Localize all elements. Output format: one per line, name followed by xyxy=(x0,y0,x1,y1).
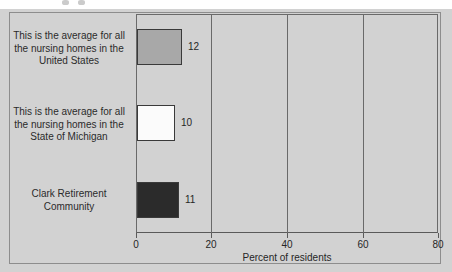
category-label-line: This is the average for all xyxy=(6,30,132,43)
gridline-40 xyxy=(287,15,288,234)
category-label-line: Community xyxy=(6,201,132,214)
scan-artifact-mark xyxy=(78,0,85,5)
tick-mark-60 xyxy=(363,233,364,238)
category-label-line: This is the average for all xyxy=(6,106,132,119)
category-label-state-of-michigan: This is the average for all the nursing … xyxy=(6,106,132,144)
bar-state-of-michigan xyxy=(137,105,175,141)
tick-label-80: 80 xyxy=(423,239,452,250)
tick-label-40: 40 xyxy=(272,239,302,250)
category-label-line: Clark Retirement xyxy=(6,188,132,201)
scan-artifact-mark xyxy=(62,0,69,5)
category-label-line: United States xyxy=(6,55,132,68)
bar-united-states xyxy=(137,29,182,65)
tick-mark-40 xyxy=(287,233,288,238)
bar-clark-retirement-community xyxy=(137,182,179,218)
bar-value-state-of-michigan: 10 xyxy=(181,118,192,128)
category-label-clark-retirement-community: Clark Retirement Community xyxy=(6,188,132,213)
gridline-20 xyxy=(211,15,212,234)
category-label-line: the nursing homes in the xyxy=(6,43,132,56)
category-label-line: the nursing homes in the xyxy=(6,119,132,132)
bar-value-united-states: 12 xyxy=(188,42,199,52)
tick-label-20: 20 xyxy=(196,239,226,250)
chart-screenshot: This is the average for all the nursing … xyxy=(0,0,452,272)
bar-value-clark-retirement-community: 11 xyxy=(185,195,195,205)
scan-bleed-strip xyxy=(0,0,452,9)
x-axis-title: Percent of residents xyxy=(136,252,438,263)
tick-mark-0 xyxy=(136,233,137,238)
gridline-60 xyxy=(363,15,364,234)
tick-label-60: 60 xyxy=(348,239,378,250)
tick-label-0: 0 xyxy=(121,239,151,250)
tick-mark-80 xyxy=(438,233,439,238)
category-label-united-states: This is the average for all the nursing … xyxy=(6,30,132,68)
tick-mark-20 xyxy=(211,233,212,238)
category-label-line: State of Michigan xyxy=(6,131,132,144)
